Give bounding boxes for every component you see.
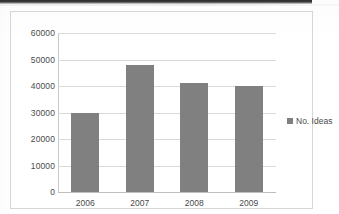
x-tick-label-2007: 2007 [118, 198, 162, 208]
bar-2009 [235, 86, 263, 192]
chart-frame: 0100002000030000400005000060000 20062007… [10, 11, 313, 209]
legend-label-no-ideas: No. Ideas [296, 116, 332, 126]
y-axis-tick-labels: 0100002000030000400005000060000 [11, 33, 55, 192]
gridline-0 [58, 192, 276, 193]
y-tick-label-10000: 10000 [11, 161, 55, 171]
legend-swatch-no-ideas [287, 118, 293, 124]
y-tick-label-60000: 60000 [11, 28, 55, 38]
y-tick-label-30000: 30000 [11, 108, 55, 118]
y-tick-label-50000: 50000 [11, 55, 55, 65]
x-tick-label-2009: 2009 [227, 198, 271, 208]
chart-legend: No. Ideas [287, 116, 332, 126]
y-tick-label-40000: 40000 [11, 81, 55, 91]
plot-area [58, 33, 276, 192]
x-tick-label-2008: 2008 [172, 198, 216, 208]
gridline-60000 [58, 33, 276, 34]
bar-2008 [180, 83, 208, 192]
x-tick-label-2006: 2006 [63, 198, 107, 208]
gridline-50000 [58, 60, 276, 61]
bar-2006 [71, 113, 99, 193]
scan-edge-thin-line [0, 4, 339, 6]
y-tick-label-20000: 20000 [11, 134, 55, 144]
x-axis-tick-labels: 2006200720082009 [58, 198, 276, 214]
y-tick-label-0: 0 [11, 187, 55, 197]
bar-2007 [126, 65, 154, 192]
